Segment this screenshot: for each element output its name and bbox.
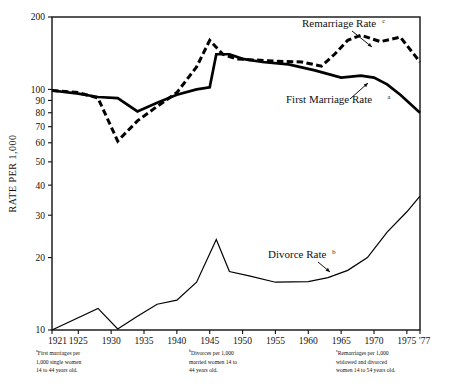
footnote-b-text: Divorces per 1,000 married women 14 to 4… bbox=[189, 350, 237, 373]
x-axis-tick-label: 1940 bbox=[167, 336, 186, 346]
series-label-superscript: b bbox=[332, 248, 335, 255]
y-axis-tick-label: 80 bbox=[36, 108, 46, 118]
series-label: Divorce Rate bbox=[268, 248, 326, 260]
y-axis-tick-label: 30 bbox=[36, 211, 46, 221]
x-axis-tick-label: 1970 bbox=[365, 336, 384, 346]
x-axis-tick-label: 1930 bbox=[102, 336, 121, 346]
plot-frame bbox=[52, 17, 420, 330]
series-annotation: Divorce Rateb bbox=[268, 248, 335, 272]
y-axis-tick-label: 90 bbox=[36, 96, 46, 106]
y-axis-tick-label: 100 bbox=[31, 85, 46, 95]
y-axis-tick-label: 20 bbox=[36, 253, 46, 263]
x-axis-tick-label: 1945 bbox=[200, 336, 219, 346]
footnote-c: cRemarriages per 1,000 widowed and divor… bbox=[336, 348, 442, 375]
footnote-group: aFirst marriages per 1,000 single women … bbox=[0, 346, 458, 388]
footnote-a: aFirst marriages per 1,000 single women … bbox=[36, 348, 128, 375]
x-axis-tick-label: 1950 bbox=[233, 336, 252, 346]
x-axis-tick-label: '77 bbox=[419, 336, 430, 346]
x-axis-tick-label: 1965 bbox=[332, 336, 351, 346]
x-axis-tick-label: 1935 bbox=[135, 336, 154, 346]
series-label-superscript: a bbox=[388, 93, 391, 100]
series-annotation: Remarriage Ratec bbox=[302, 17, 385, 47]
series-label-superscript: c bbox=[382, 17, 385, 24]
y-axis-tick-label: 200 bbox=[31, 12, 46, 22]
chart-figure: 1020304050607080901002001921192519301935… bbox=[0, 0, 458, 388]
footnote-c-text: Remarriages per 1,000 widowed and divorc… bbox=[336, 350, 395, 373]
y-axis-tick-label: 50 bbox=[36, 157, 46, 167]
footnote-b: bDivorces per 1,000 married women 14 to … bbox=[189, 348, 281, 375]
y-axis-tick-label: 70 bbox=[36, 122, 46, 132]
y-axis-tick-label: 60 bbox=[36, 138, 46, 148]
series-line-divorce-rate bbox=[52, 196, 420, 330]
series-label: Remarriage Rate bbox=[302, 17, 376, 29]
x-axis-tick-label: 1925 bbox=[69, 336, 88, 346]
series-line-remarriage-rate bbox=[52, 35, 420, 141]
x-axis-tick-label: 1960 bbox=[299, 336, 318, 346]
marriage-divorce-remarriage-rate-chart: 1020304050607080901002001921192519301935… bbox=[0, 0, 458, 388]
x-axis-tick-label: 1921 bbox=[48, 336, 67, 346]
x-axis-tick-label: 1975 bbox=[397, 336, 416, 346]
footnote-a-text: First marriages per 1,000 single women 1… bbox=[36, 350, 81, 373]
series-annotation: First Marriage Ratea bbox=[286, 83, 391, 105]
series-label: First Marriage Rate bbox=[286, 93, 372, 105]
y-axis-tick-label: 40 bbox=[36, 181, 46, 191]
y-axis-title: RATE PER 1,000 bbox=[7, 135, 18, 213]
y-axis-tick-label: 10 bbox=[36, 325, 46, 335]
x-axis-tick-label: 1955 bbox=[266, 336, 285, 346]
